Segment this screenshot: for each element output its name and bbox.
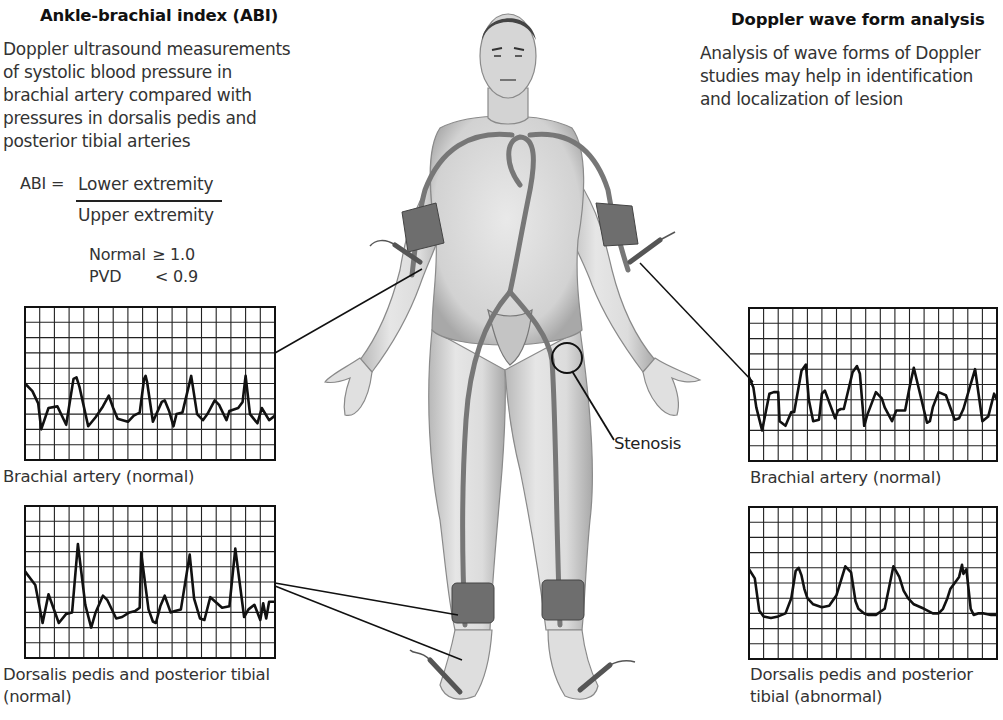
right-hand: [325, 358, 372, 415]
waveform-chart-right-dorsalis-pedis: [749, 507, 997, 659]
left-ankle-cuff: [542, 580, 584, 620]
caption-right-dorsalis: Dorsalis pedis and posterior tibial (abn…: [750, 664, 1003, 708]
chart-grid: [749, 308, 997, 461]
chart-grid: [25, 506, 275, 658]
waveform-trace: [749, 565, 997, 618]
caption-left-dorsalis: Dorsalis pedis and posterior tibial (nor…: [3, 664, 273, 708]
left-hand: [643, 358, 700, 415]
chart-grid: [25, 307, 275, 460]
waveform-trace: [749, 365, 997, 431]
left-arm-cuff: [596, 203, 638, 246]
left-foot: [548, 630, 598, 699]
chart-grid: [749, 507, 997, 659]
waveform-trace: [25, 544, 275, 628]
caption-right-brachial: Brachial artery (normal): [750, 467, 941, 489]
right-foot: [440, 630, 492, 699]
right-ankle-cuff: [452, 583, 494, 623]
caption-left-brachial: Brachial artery (normal): [3, 466, 194, 488]
stenosis-label: Stenosis: [614, 433, 681, 455]
human-figure: [325, 14, 700, 699]
waveform-chart-left-brachial: [25, 307, 275, 460]
right-arm-cuff: [402, 203, 444, 252]
diagram-canvas: [0, 0, 1003, 720]
waveform-chart-left-dorsalis-pedis: [25, 506, 275, 658]
waveform-chart-right-brachial: [749, 308, 997, 461]
